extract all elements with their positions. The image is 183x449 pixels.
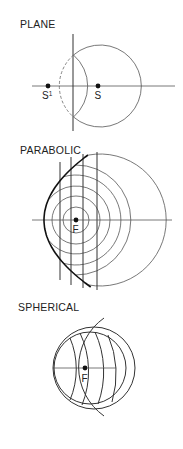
plane-virtual-source-label: S1 <box>42 90 53 102</box>
parabolic-panel: PARABOLIC F <box>20 144 172 290</box>
reflector-diagrams: PLANE S1 S PARABOLIC F SPHERICAL F <box>0 0 183 449</box>
parabolic-mirror <box>44 155 91 287</box>
plane-panel: PLANE S1 S <box>20 18 175 131</box>
spherical-wavefront-curve <box>108 335 116 402</box>
plane-source-dot <box>96 84 101 89</box>
plane-virtual-source-dot <box>46 84 51 89</box>
plane-source-label: S <box>95 90 102 101</box>
parabolic-title: PARABOLIC <box>20 144 81 156</box>
spherical-focus-dot <box>83 366 88 371</box>
spherical-panel: SPHERICAL F <box>18 301 135 416</box>
spherical-focus-label: F <box>82 373 88 384</box>
parabolic-focus-dot <box>74 218 79 223</box>
plane-title: PLANE <box>20 18 55 30</box>
spherical-title: SPHERICAL <box>18 301 79 313</box>
parabolic-focus-label: F <box>73 224 79 235</box>
spherical-wavefront-curve <box>70 338 76 400</box>
